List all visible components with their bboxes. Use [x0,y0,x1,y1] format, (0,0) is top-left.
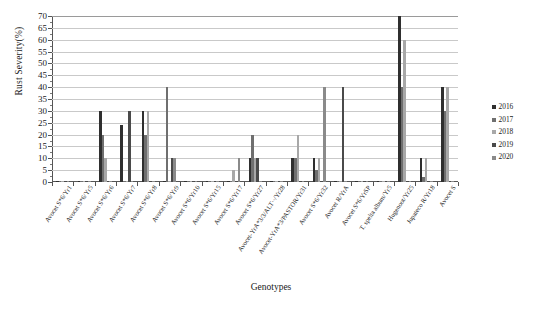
y-tick-label: 20 [38,130,47,140]
x-tick-label: Avocet S [438,184,457,208]
legend: 20162017201820192020 [492,101,513,164]
x-axis-labels: Avocet S*6/Yr1Avocet S*6/Yr5Avocet S*6/Y… [52,184,458,270]
bar-group [223,16,244,182]
legend-item: 2018 [492,126,513,139]
bar-2018 [147,111,150,182]
bar-group [415,16,436,182]
y-tick-label: 65 [38,23,47,33]
legend-item: 2019 [492,139,513,152]
bar-group [266,16,287,182]
bar-group [309,16,330,182]
y-tick-label: 45 [38,70,47,80]
legend-item: 2020 [492,151,513,164]
bar-groups [52,16,458,182]
bar-group [138,16,159,182]
y-tick-label: 30 [38,106,47,116]
bar-group [95,16,116,182]
y-tick-label: 70 [38,11,47,21]
bar-2019 [342,87,345,182]
y-tick-label: 55 [38,47,47,57]
bar-2018 [297,135,300,182]
x-axis-title: Genotypes [0,282,542,292]
bar-group [351,16,372,182]
y-tick-label: 50 [38,58,47,68]
bar-2020 [238,158,241,182]
bar-group [244,16,265,182]
legend-swatch-icon [492,143,496,147]
legend-label: 2018 [499,126,514,139]
bar-2018 [104,158,107,182]
y-tick-label: 35 [38,94,47,104]
bar-2018 [403,40,406,182]
bar-group [330,16,351,182]
bar-2019 [128,111,131,182]
legend-swatch-icon [492,105,496,109]
bar-group [180,16,201,182]
y-tick-label: 40 [38,82,47,92]
bar-2020 [173,158,176,182]
bar-group [394,16,415,182]
bar-2018 [425,158,428,182]
x-tick-mark [458,182,459,186]
figure-chart-rust-severity: Rust Severity(%) 05101520253035404550556… [0,0,542,312]
y-tick-label: 10 [38,153,47,163]
legend-item: 2016 [492,101,513,114]
legend-item: 2017 [492,114,513,127]
bar-group [73,16,94,182]
bar-group [52,16,73,182]
legend-swatch-icon [492,156,496,160]
bar-2019 [256,158,259,182]
bar-group [116,16,137,182]
figure-caption [6,299,306,308]
legend-label: 2016 [499,101,514,114]
bar-2017 [166,87,169,182]
y-axis-title: Rust Severity(%) [14,6,24,116]
bar-group [373,16,394,182]
legend-label: 2017 [499,114,514,127]
bar-2018 [318,158,321,182]
bar-2020 [323,87,326,182]
y-tick-label: 25 [38,118,47,128]
y-tick-label: 60 [38,35,47,45]
y-tick-label: 0 [43,177,48,187]
legend-label: 2019 [499,139,514,152]
bar-2018 [446,87,449,182]
legend-swatch-icon [492,130,496,134]
bar-2016 [120,125,123,182]
bar-group [202,16,223,182]
bar-group [159,16,180,182]
bar-group [287,16,308,182]
y-tick-label: 5 [43,165,48,175]
legend-label: 2020 [499,151,514,164]
legend-swatch-icon [492,118,496,122]
y-tick-label: 15 [38,141,47,151]
plot-area: 0510152025303540455055606570 [52,16,458,182]
bar-group [437,16,458,182]
